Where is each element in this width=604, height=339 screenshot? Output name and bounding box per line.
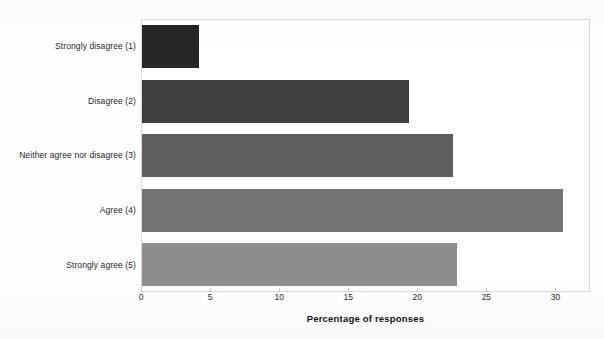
x-tick-label: 15 [328, 292, 368, 302]
x-tick-label: 20 [397, 292, 437, 302]
bar-band [142, 184, 589, 239]
x-tick-label: 5 [190, 292, 230, 302]
x-axis-title: Percentage of responses [141, 313, 590, 324]
bar[interactable] [142, 80, 409, 123]
bar[interactable] [142, 134, 453, 177]
x-axis: 051015202530 [141, 292, 590, 312]
bar-band [142, 75, 589, 130]
category-label: Strongly disagree (1) [0, 19, 136, 74]
category-label: Disagree (2) [0, 74, 136, 129]
bar-band [142, 20, 589, 75]
plot-area [141, 19, 590, 292]
bar-chart-figure: Survey Strongly disagree (1)Disagree (2)… [0, 0, 604, 339]
chart-title-cropped: Survey [0, 0, 604, 13]
bar[interactable] [142, 189, 563, 232]
bar[interactable] [142, 243, 457, 286]
x-tick-label: 25 [466, 292, 506, 302]
category-axis: Strongly disagree (1)Disagree (2)Neither… [0, 19, 136, 292]
x-tick-label: 30 [535, 292, 575, 302]
bar[interactable] [142, 25, 199, 68]
bar-band [142, 238, 589, 293]
category-label: Neither agree nor disagree (3) [0, 128, 136, 183]
category-label: Agree (4) [0, 183, 136, 238]
x-tick-label: 0 [121, 292, 161, 302]
bars-container [142, 20, 589, 291]
category-label: Strongly agree (5) [0, 237, 136, 292]
x-tick-label: 10 [259, 292, 299, 302]
bar-band [142, 129, 589, 184]
